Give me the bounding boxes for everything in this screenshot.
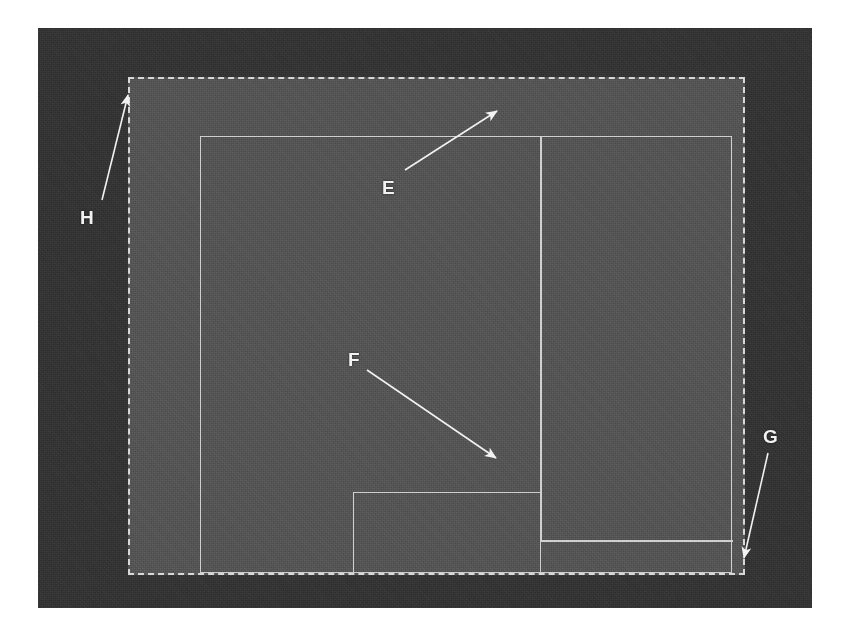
- callout-label-h: H: [80, 208, 94, 227]
- callout-label-f: F: [348, 350, 360, 369]
- outer-dark-frame: [38, 28, 812, 608]
- dashed-boundary-rect: [128, 77, 745, 575]
- vertical-divider-line: [540, 136, 542, 541]
- figure-canvas: E F G H: [0, 0, 847, 635]
- lower-horizontal-line: [540, 540, 733, 542]
- callout-label-g: G: [763, 427, 778, 446]
- nested-small-rect: [353, 492, 541, 573]
- callout-label-e: E: [382, 178, 395, 197]
